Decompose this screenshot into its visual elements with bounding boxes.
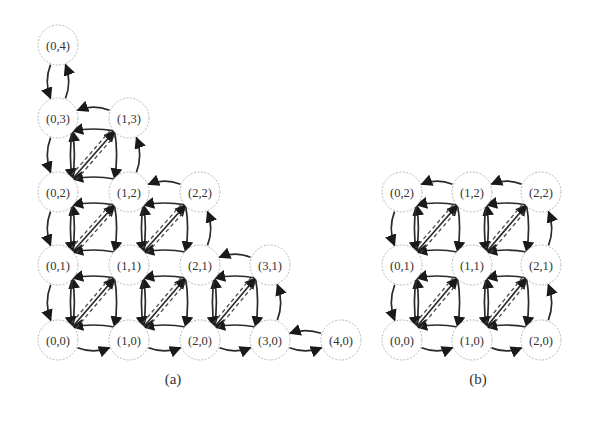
edge-b-vu-2-0 [548, 285, 551, 321]
cell-b-0-1-top-edge [416, 203, 457, 205]
cell-a-0-2-left-edge [72, 131, 74, 179]
cell-a-0-2-bl-tr [72, 131, 114, 179]
edge-a-vd-1 [47, 212, 50, 246]
state-node: (1,1) [452, 245, 492, 285]
cell-a-1-0-left-edge-rev [141, 278, 143, 327]
node-label: (0,0) [46, 334, 70, 348]
cell-a-0-0-top-edge [72, 276, 114, 278]
cell-a-2-0-right-edge [256, 278, 258, 327]
state-node: (3,1) [250, 245, 290, 285]
state-node: (4,0) [321, 320, 361, 360]
node-label: (0,3) [46, 112, 70, 126]
cell-a-0-0-diag-2 [72, 277, 111, 323]
edge-b-hl-1-2 [492, 181, 522, 184]
cell-b-1-0-left-edge-rev [484, 278, 486, 327]
edge-a-vd-2 [47, 138, 50, 173]
cell-a-1-0-top-edge [143, 276, 185, 278]
node-label: (0,2) [46, 186, 70, 200]
edge-b-vd-1 [391, 212, 394, 246]
cell-a-1-0-right-edge [186, 278, 188, 327]
node-label: (1,0) [460, 334, 484, 348]
state-node: (0,2) [382, 172, 422, 212]
cell-b-1-1-top-edge [486, 203, 526, 205]
node-label: (0,1) [390, 259, 414, 273]
captions-layer: (a) (b) [165, 371, 487, 388]
node-label: (1,1) [117, 259, 141, 273]
cell-a-0-2-left-edge-rev [70, 131, 72, 179]
cell-b-0-1-bl-tr [416, 205, 457, 252]
cell-a-2-0-diag-1 [218, 282, 256, 328]
cell-b-1-0-diag-2 [486, 277, 523, 323]
state-node: (2,2) [521, 172, 561, 212]
edge-a-vd-3 [47, 65, 50, 99]
node-label: (1,3) [117, 112, 141, 126]
node-label: (1,1) [460, 259, 484, 273]
cell-b-0-0-top-edge [416, 276, 457, 278]
edge-a-vu2-1-2 [136, 138, 139, 173]
cell-b-1-0-left-edge [486, 278, 488, 327]
state-node: (0,1) [382, 245, 422, 285]
cell-b-0-1-left-edge-rev [414, 205, 416, 252]
edge-b-h-1-0 [492, 348, 522, 351]
cell-a-0-2-diag-1 [76, 135, 115, 180]
state-node: (2,1) [521, 245, 561, 285]
cell-a-1-1-top-edge [143, 203, 185, 205]
state-node: (0,4) [38, 25, 78, 65]
edge-a-hl-2-1 [220, 254, 251, 257]
node-label: (2,0) [188, 334, 212, 348]
state-node: (2,0) [180, 320, 220, 360]
state-transition-diagram: (0,4)(0,3)(1,3)(0,2)(1,2)(2,2)(0,1)(1,1)… [0, 0, 595, 422]
state-node: (1,2) [109, 172, 149, 212]
state-node: (1,1) [109, 245, 149, 285]
state-node: (0,0) [382, 320, 422, 360]
state-node: (2,0) [521, 320, 561, 360]
edge-a-vu2-3-0 [277, 285, 280, 321]
cell-b-1-1-left-edge-rev [484, 205, 486, 252]
node-label: (3,0) [258, 334, 282, 348]
cell-a-1-1-right-edge [186, 205, 188, 252]
cell-a-0-1-right-edge [115, 205, 117, 252]
cell-a-1-0-bl-tr [143, 278, 185, 327]
node-label: (2,1) [188, 259, 212, 273]
state-node: (2,2) [180, 172, 220, 212]
cell-a-2-0-bl-tr [214, 278, 255, 327]
panel-a-caption: (a) [165, 371, 182, 388]
edge-b-hl-0-2 [422, 181, 453, 184]
cell-a-1-0-diag-1 [147, 282, 186, 328]
cell-a-0-1-top-edge [72, 203, 114, 205]
cell-b-1-1-bl-tr [486, 205, 526, 252]
cell-a-1-0-diag-2 [143, 277, 182, 323]
state-node: (0,0) [38, 320, 78, 360]
edge-a-h-3-0 [290, 348, 322, 351]
cell-a-1-1-left-edge-rev [141, 205, 143, 252]
edge-b-vu-2-1 [549, 212, 552, 246]
edge-a-vu2-2-1 [208, 212, 211, 246]
cell-b-1-1-diag-1 [490, 209, 527, 253]
cell-a-1-1-diag-2 [143, 204, 182, 248]
cell-a-0-0-left-edge-rev [70, 278, 72, 327]
node-label: (1,2) [117, 186, 141, 200]
state-node: (1,0) [452, 320, 492, 360]
edge-a-h-2-0 [220, 348, 251, 351]
cell-b-0-1-diag-1 [420, 209, 458, 253]
edge-a-hl-1-2 [149, 181, 181, 184]
edge-b-h-0-0 [422, 348, 453, 351]
state-node: (0,3) [38, 98, 78, 138]
cell-b-0-0-diag-1 [420, 282, 458, 328]
node-label: (2,2) [529, 186, 553, 200]
cell-b-1-1-right-edge [527, 205, 529, 252]
node-label: (0,4) [46, 39, 70, 53]
cell-a-1-1-diag-1 [147, 209, 186, 253]
cell-b-0-0-diag-2 [416, 277, 454, 323]
cell-a-0-0-diag-1 [76, 282, 115, 328]
state-node: (2,1) [180, 245, 220, 285]
cell-b-1-1-diag-2 [486, 204, 523, 248]
node-label: (4,0) [329, 334, 353, 348]
node-label: (1,0) [117, 334, 141, 348]
cell-a-2-0-top-edge [214, 276, 255, 278]
node-label: (2,1) [529, 259, 553, 273]
cell-a-0-2-diag-2 [72, 130, 111, 175]
state-node: (0,2) [38, 172, 78, 212]
cell-a-2-0-left-edge [214, 278, 216, 327]
cell-b-1-1-left-edge [486, 205, 488, 252]
